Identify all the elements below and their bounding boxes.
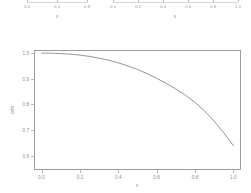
- tickmark: [87, 0, 88, 2]
- top-left-clipped-panel: 0.00.40.8 x: [0, 0, 110, 26]
- tick-label: 0.2: [77, 175, 84, 180]
- tick-label: 0.4: [160, 4, 166, 9]
- tickmark: [31, 156, 34, 157]
- tick-label: 0.6: [15, 153, 29, 158]
- tick-label: 1.0: [235, 4, 241, 9]
- tickmark: [238, 0, 239, 2]
- tick-label: 0.6: [185, 4, 191, 9]
- tickmark: [57, 0, 58, 2]
- top-left-axis-title: x: [56, 14, 58, 19]
- tickmark: [31, 104, 34, 105]
- top-right-clipped-panel: 0.00.20.40.60.81.0 x: [105, 0, 251, 26]
- tick-label: 0.4: [115, 175, 122, 180]
- main-y-axis-title: cdm: [10, 106, 15, 115]
- tickmark: [163, 0, 164, 2]
- tick-label: 0.9: [15, 76, 29, 81]
- top-right-axis-title: x: [174, 14, 176, 19]
- tick-label: 0.0: [24, 4, 30, 9]
- tick-label: 0.0: [38, 175, 45, 180]
- tick-label: 0.8: [210, 4, 216, 9]
- tick-label: 0.8: [15, 102, 29, 107]
- curve-plot: [34, 50, 241, 170]
- tick-label: 0.4: [54, 4, 60, 9]
- tickmark: [42, 170, 43, 173]
- tickmark: [113, 0, 114, 2]
- figure-canvas: 0.00.40.8 x 0.00.20.40.60.81.0 x 0.00.20…: [0, 0, 251, 193]
- tickmark: [31, 130, 34, 131]
- tick-label: 0.2: [135, 4, 141, 9]
- tick-label: 0.6: [153, 175, 160, 180]
- tickmark: [27, 0, 28, 2]
- tickmark: [188, 0, 189, 2]
- tick-label: 0.8: [192, 175, 199, 180]
- tickmark: [195, 170, 196, 173]
- tickmark: [233, 170, 234, 173]
- tickmark: [138, 0, 139, 2]
- tick-label: 0.8: [84, 4, 90, 9]
- top-right-axis-rule: [113, 2, 238, 3]
- tickmark: [31, 79, 34, 80]
- curve-line: [42, 53, 234, 146]
- main-x-axis-title: x: [136, 183, 138, 188]
- tickmark: [118, 170, 119, 173]
- main-plot-panel: 0.00.20.40.60.81.0 0.60.70.80.91.0 x cdm: [0, 40, 251, 193]
- tick-label: 1.0: [15, 51, 29, 56]
- tick-label: 0.0: [110, 4, 116, 9]
- tickmark: [157, 170, 158, 173]
- top-left-axis-rule: [27, 2, 87, 3]
- tick-label: 0.7: [15, 128, 29, 133]
- tickmark: [31, 53, 34, 54]
- tickmark: [80, 170, 81, 173]
- tick-label: 1.0: [230, 175, 237, 180]
- tickmark: [213, 0, 214, 2]
